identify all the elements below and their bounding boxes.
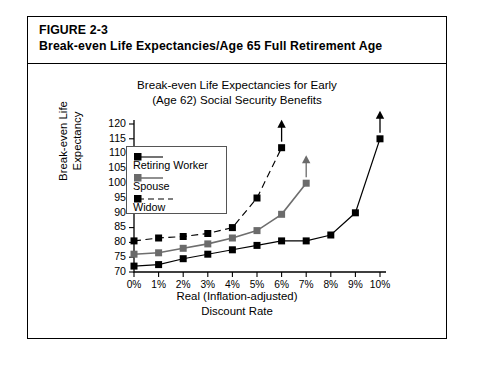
data-point-marker <box>303 180 310 187</box>
data-point-marker <box>155 249 162 256</box>
y-axis-tick-label: 115 <box>109 132 126 144</box>
legend-item-spouse: Spouse <box>133 172 226 193</box>
legend-item-widow: Widow <box>133 193 226 214</box>
legend-label-spouse: Spouse <box>133 180 170 192</box>
figure-container: FIGURE 2-3 Break-even Life Expectancies/… <box>27 16 447 339</box>
y-axis-tick-label: 100 <box>108 176 126 188</box>
series-terminal-arrowhead <box>376 111 384 119</box>
y-axis-title: Break-even Life Expectancy <box>56 66 84 216</box>
data-point-marker <box>229 235 236 242</box>
data-point-marker <box>303 237 310 244</box>
data-point-marker <box>131 237 138 244</box>
legend-label-retiring-worker: Retiring Worker <box>133 159 208 171</box>
y-axis-tick-label: 110 <box>109 146 126 158</box>
y-axis-tick-label: 70 <box>114 265 126 277</box>
y-axis-tick-label: 105 <box>108 161 126 173</box>
data-point-marker <box>155 261 162 268</box>
data-point-marker <box>377 135 384 142</box>
data-point-marker <box>254 242 261 249</box>
y-axis-tick-label: 120 <box>108 117 126 129</box>
y-axis-title-line-2: Expectancy <box>70 66 84 216</box>
y-axis-title-line-1: Break-even Life <box>56 66 70 216</box>
data-point-marker <box>204 230 211 237</box>
data-point-marker <box>229 246 236 253</box>
x-axis-title-line-1: Real (Inflation-adjusted) <box>28 289 446 304</box>
data-point-marker <box>180 233 187 240</box>
data-point-marker <box>204 240 211 247</box>
figure-header: FIGURE 2-3 Break-even Life Expectancies/… <box>28 17 446 64</box>
series-terminal-arrowhead <box>277 120 285 128</box>
chart-area: Break-even Life Expectancies for Early (… <box>28 64 446 338</box>
data-point-marker <box>278 237 285 244</box>
data-point-marker <box>254 195 261 202</box>
data-point-marker <box>180 255 187 262</box>
data-point-marker <box>180 245 187 252</box>
figure-caption: Break-even Life Expectancies/Age 65 Full… <box>39 39 446 55</box>
y-axis-tick-label: 80 <box>114 235 126 247</box>
y-axis-tick-label: 95 <box>114 191 126 203</box>
data-point-marker <box>155 235 162 242</box>
data-point-marker <box>254 227 261 234</box>
x-axis-title: Real (Inflation-adjusted) Discount Rate <box>28 289 446 318</box>
data-point-marker <box>278 144 285 151</box>
figure-label: FIGURE 2-3 <box>39 23 446 39</box>
y-axis-tick-label: 85 <box>114 220 126 232</box>
chart-legend: Retiring Worker Spouse Widow <box>126 146 227 214</box>
y-axis-tick-label: 75 <box>114 250 126 262</box>
x-axis-title-line-2: Discount Rate <box>28 304 446 319</box>
data-point-marker <box>131 263 138 270</box>
data-point-marker <box>131 251 138 258</box>
y-axis-tick-label: 90 <box>114 206 126 218</box>
data-point-marker <box>278 211 285 218</box>
data-point-marker <box>327 232 334 239</box>
data-point-marker <box>204 251 211 258</box>
data-point-marker <box>352 209 359 216</box>
legend-item-retiring-worker: Retiring Worker <box>133 151 226 172</box>
series-terminal-arrowhead <box>302 155 310 163</box>
data-point-marker <box>229 224 236 231</box>
legend-label-widow: Widow <box>133 201 165 213</box>
